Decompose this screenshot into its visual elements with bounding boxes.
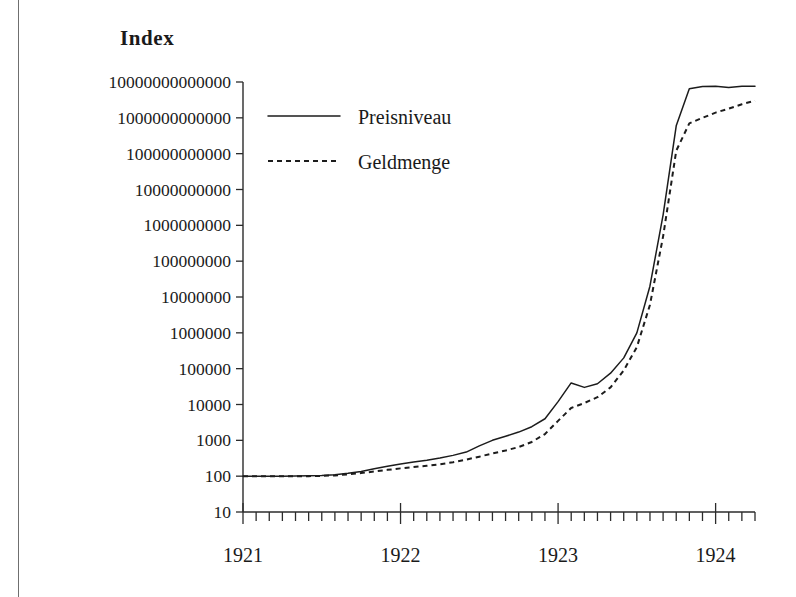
y-tick-label: 100000 [179,359,232,379]
y-tick-label: 10 [214,502,232,522]
y-tick-label: 1000000000 [144,215,232,235]
x-tick-label: 1921 [223,544,263,566]
y-tick-label: 10000000000 [135,180,232,200]
x-tick-label: 1922 [381,544,421,566]
y-tick-label: 1000 [196,430,231,450]
y-tick-label: 10000000 [161,287,231,307]
chart-legend: PreisniveauGeldmenge [268,106,451,174]
series-line-geldmenge [243,101,755,476]
y-tick-label: 100000000 [152,251,231,271]
x-tick-label: 1923 [538,544,578,566]
chart-figure: Index 1000000000000010000000000001000000… [0,0,796,597]
y-tick-label: 10000000000000 [109,72,232,92]
y-tick-label: 10000 [187,395,231,415]
y-axis-tick-marks [236,82,243,512]
y-tick-label: 1000000 [170,323,232,343]
legend-label: Geldmenge [358,151,450,174]
x-axis-tick-labels: 1921192219231924 [223,544,736,566]
y-tick-label: 100000000000 [126,144,231,164]
series-line-preisniveau [243,86,755,476]
x-tick-label: 1924 [696,544,736,566]
legend-label: Preisniveau [358,106,451,128]
x-axis-tick-marks [243,503,755,524]
chart-plot-area: 1000000000000010000000000001000000000001… [0,0,796,597]
y-axis-tick-labels: 1000000000000010000000000001000000000001… [109,72,232,522]
y-tick-label: 100 [205,466,232,486]
y-tick-label: 1000000000000 [117,108,231,128]
